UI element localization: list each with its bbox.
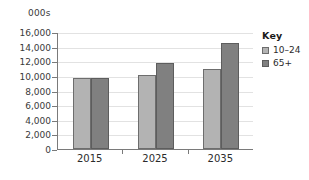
y-axis-tick-label: 14,000	[5, 43, 51, 53]
y-axis-tick-label: 10,000	[5, 72, 51, 82]
bar	[91, 78, 109, 149]
x-axis-tick-mark	[188, 150, 189, 154]
units-label: 000s	[28, 8, 51, 18]
x-axis-tick-mark	[122, 150, 123, 154]
legend-item-label: 10–24	[273, 45, 300, 55]
bar	[138, 75, 156, 149]
gridline	[58, 33, 253, 34]
legend-swatch-icon	[262, 47, 269, 54]
y-axis-tick-label: 6,000	[5, 101, 51, 111]
legend-title: Key	[262, 30, 308, 41]
y-axis-tick-label: 16,000	[5, 28, 51, 38]
bar	[73, 78, 91, 149]
legend: Key 10–2465+	[262, 30, 308, 71]
y-axis-tick-label: 0	[5, 145, 51, 155]
legend-item-label: 65+	[273, 58, 292, 68]
x-axis-tick-label: 2015	[77, 153, 102, 164]
legend-item[interactable]: 65+	[262, 58, 308, 68]
bar	[156, 63, 174, 149]
x-axis-tick-label: 2025	[142, 153, 167, 164]
plot-area	[57, 33, 253, 150]
y-axis-tick-label: 4,000	[5, 116, 51, 126]
bar	[203, 69, 221, 149]
x-axis-tick-label: 2035	[208, 153, 233, 164]
y-axis-tick-mark	[52, 150, 57, 151]
legend-item[interactable]: 10–24	[262, 45, 308, 55]
legend-swatch-icon	[262, 60, 269, 67]
y-axis-tick-label: 12,000	[5, 57, 51, 67]
bar	[221, 43, 239, 149]
y-axis-tick-label: 2,000	[5, 130, 51, 140]
y-axis-tick-label: 8,000	[5, 87, 51, 97]
bar-chart: 000s 02,0004,0006,0008,00010,00012,00014…	[0, 0, 309, 180]
